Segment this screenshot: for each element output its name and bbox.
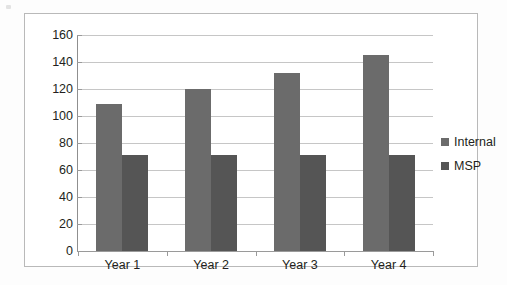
y-axis-tick-label: 100 xyxy=(29,110,73,123)
legend-item-msp[interactable]: MSP xyxy=(441,160,501,173)
y-axis-tick-mark xyxy=(77,116,82,117)
y-axis-labels: 020406080100120140160 xyxy=(25,35,73,251)
bars-layer xyxy=(78,35,433,251)
x-axis-tick-mark xyxy=(167,251,168,256)
legend-label: Internal xyxy=(454,136,496,149)
legend-item-internal[interactable]: Internal xyxy=(441,136,501,149)
page-background: 020406080100120140160 Year 1Year 2Year 3… xyxy=(0,0,507,285)
y-axis-tick-mark xyxy=(77,197,82,198)
y-axis-tick-mark xyxy=(77,224,82,225)
x-axis-tick-mark xyxy=(344,251,345,256)
bar-msp-year-3[interactable] xyxy=(300,155,326,251)
y-axis-tick-label: 60 xyxy=(29,164,73,177)
bar-msp-year-4[interactable] xyxy=(389,155,415,251)
x-axis-tick-label: Year 4 xyxy=(371,259,407,272)
x-axis-tick-mark xyxy=(433,251,434,256)
legend-swatch-icon xyxy=(441,138,449,146)
bar-internal-year-1[interactable] xyxy=(96,104,122,251)
legend-swatch-icon xyxy=(441,162,449,170)
bar-group xyxy=(274,35,326,251)
y-axis-tick-label: 160 xyxy=(29,29,73,42)
y-axis-tick-label: 0 xyxy=(29,245,73,258)
bar-msp-year-1[interactable] xyxy=(122,155,148,251)
y-axis-tick-mark xyxy=(77,62,82,63)
bar-group xyxy=(96,35,148,251)
y-axis-tick-label: 40 xyxy=(29,191,73,204)
bar-internal-year-2[interactable] xyxy=(185,89,211,251)
scan-artifact xyxy=(6,5,11,9)
bar-group xyxy=(185,35,237,251)
bar-internal-year-4[interactable] xyxy=(363,55,389,251)
x-axis-tick-label: Year 1 xyxy=(105,259,141,272)
x-axis-tick-label: Year 2 xyxy=(193,259,229,272)
x-axis-tick-mark xyxy=(78,251,79,256)
y-axis-tick-label: 80 xyxy=(29,137,73,150)
y-axis-tick-mark xyxy=(77,143,82,144)
chart-legend: InternalMSP xyxy=(441,136,501,183)
bar-msp-year-2[interactable] xyxy=(211,155,237,251)
y-axis-tick-label: 120 xyxy=(29,83,73,96)
x-axis-tick-label: Year 3 xyxy=(282,259,318,272)
chart-frame: 020406080100120140160 Year 1Year 2Year 3… xyxy=(24,13,478,267)
x-axis-labels: Year 1Year 2Year 3Year 4 xyxy=(78,259,433,279)
bar-internal-year-3[interactable] xyxy=(274,73,300,251)
bar-group xyxy=(363,35,415,251)
y-axis-tick-mark xyxy=(77,89,82,90)
y-axis-tick-label: 20 xyxy=(29,218,73,231)
legend-label: MSP xyxy=(454,160,481,173)
x-axis-tick-mark xyxy=(256,251,257,256)
y-axis-tick-mark xyxy=(77,170,82,171)
y-axis-tick-label: 140 xyxy=(29,56,73,69)
y-axis-tick-mark xyxy=(77,35,82,36)
